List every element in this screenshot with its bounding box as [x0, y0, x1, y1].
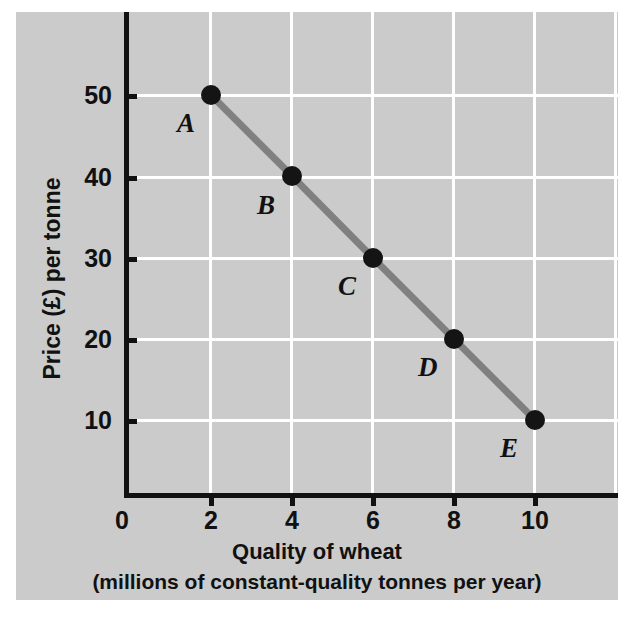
data-point-label-d: D — [418, 352, 438, 383]
chart-plot-area: 50 40 30 20 10 0 2 4 6 8 10 Price (£) pe… — [16, 12, 618, 600]
data-point-label-c: C — [338, 271, 356, 302]
data-point-marker[interactable] — [282, 166, 302, 186]
data-point-marker[interactable] — [201, 85, 221, 105]
data-point-marker[interactable] — [525, 410, 545, 430]
demand-curve — [16, 12, 618, 600]
data-point-marker[interactable] — [363, 248, 383, 268]
data-point-marker[interactable] — [444, 329, 464, 349]
data-point-label-b: B — [257, 190, 275, 221]
data-point-label-e: E — [500, 433, 518, 464]
figure-container: 50 40 30 20 10 0 2 4 6 8 10 Price (£) pe… — [0, 0, 635, 617]
data-point-label-a: A — [177, 108, 195, 139]
